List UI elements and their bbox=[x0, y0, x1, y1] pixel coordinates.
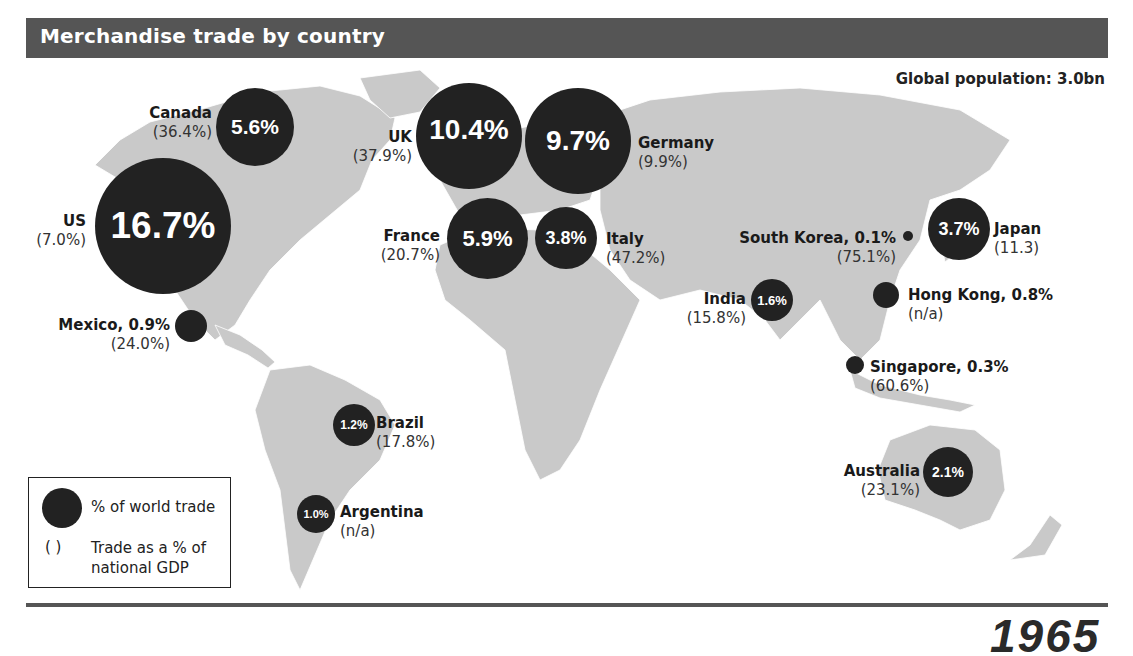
brazil-name: Brazil bbox=[376, 414, 435, 433]
australia-share: 2.1% bbox=[932, 464, 964, 480]
legend-gdp-label: Trade as a % of national GDP bbox=[91, 538, 226, 578]
germany-name: Germany bbox=[638, 134, 714, 153]
mexico-gdp: (24.0%) bbox=[40, 335, 170, 354]
mexico-bubble bbox=[175, 310, 207, 342]
mexico-label: Mexico, 0.9% (24.0%) bbox=[40, 316, 170, 354]
south-america-landmass bbox=[255, 365, 395, 590]
central-america-landmass bbox=[215, 325, 275, 368]
japan-label: Japan (11.3) bbox=[994, 220, 1041, 258]
south-korea-name: South Korea, 0.1% bbox=[720, 229, 896, 248]
italy-name: Italy bbox=[606, 230, 665, 249]
india-gdp: (15.8%) bbox=[670, 309, 746, 328]
hong-kong-name: Hong Kong, 0.8% bbox=[908, 286, 1053, 305]
argentina-bubble: 1.0% bbox=[297, 495, 335, 533]
uk-label: UK (37.9%) bbox=[330, 128, 412, 166]
us-share: 16.7% bbox=[111, 205, 216, 247]
germany-share: 9.7% bbox=[546, 125, 610, 157]
japan-gdp: (11.3) bbox=[994, 239, 1041, 258]
india-share: 1.6% bbox=[757, 293, 787, 308]
brazil-gdp: (17.8%) bbox=[376, 433, 435, 452]
legend-circle-icon bbox=[42, 488, 82, 528]
italy-bubble: 3.8% bbox=[535, 207, 597, 269]
legend-world-trade-label: % of world trade bbox=[91, 498, 215, 516]
japan-name: Japan bbox=[994, 220, 1041, 239]
france-gdp: (20.7%) bbox=[360, 246, 440, 265]
france-bubble: 5.9% bbox=[447, 198, 528, 279]
bottom-rule bbox=[26, 603, 1108, 607]
italy-share: 3.8% bbox=[545, 228, 586, 249]
brazil-bubble: 1.2% bbox=[333, 404, 375, 446]
canada-share: 5.6% bbox=[231, 115, 279, 139]
argentina-share: 1.0% bbox=[303, 508, 328, 520]
legend: % of world trade ( ) Trade as a % of nat… bbox=[28, 477, 231, 588]
us-gdp: (7.0%) bbox=[20, 231, 86, 250]
singapore-name: Singapore, 0.3% bbox=[870, 358, 1009, 377]
canada-name: Canada bbox=[130, 104, 212, 123]
germany-label: Germany (9.9%) bbox=[638, 134, 714, 172]
south-korea-bubble bbox=[903, 231, 913, 241]
canada-gdp: (36.4%) bbox=[130, 123, 212, 142]
france-label: France (20.7%) bbox=[360, 227, 440, 265]
india-label: India (15.8%) bbox=[670, 290, 746, 328]
us-label: US (7.0%) bbox=[20, 212, 86, 250]
italy-gdp: (47.2%) bbox=[606, 249, 665, 268]
singapore-bubble bbox=[846, 356, 864, 374]
year-label: 1965 bbox=[990, 613, 1100, 656]
argentina-label: Argentina (n/a) bbox=[340, 503, 424, 541]
australia-bubble: 2.1% bbox=[923, 447, 973, 497]
france-share: 5.9% bbox=[462, 226, 512, 252]
canada-bubble: 5.6% bbox=[216, 88, 294, 166]
australia-label: Australia (23.1%) bbox=[830, 462, 920, 500]
hong-kong-bubble bbox=[873, 282, 899, 308]
australia-name: Australia bbox=[830, 462, 920, 481]
brazil-label: Brazil (17.8%) bbox=[376, 414, 435, 452]
new-zealand-landmass bbox=[1010, 515, 1062, 560]
japan-bubble: 3.7% bbox=[928, 198, 990, 260]
south-korea-gdp: (75.1%) bbox=[720, 248, 896, 267]
japan-share: 3.7% bbox=[938, 219, 979, 240]
legend-parentheses-icon: ( ) bbox=[45, 538, 61, 556]
india-name: India bbox=[670, 290, 746, 309]
us-name: US bbox=[20, 212, 86, 231]
australia-gdp: (23.1%) bbox=[830, 481, 920, 500]
argentina-name: Argentina bbox=[340, 503, 424, 522]
hong-kong-label: Hong Kong, 0.8% (n/a) bbox=[908, 286, 1053, 324]
france-name: France bbox=[360, 227, 440, 246]
uk-name: UK bbox=[330, 128, 412, 147]
south-korea-label: South Korea, 0.1% (75.1%) bbox=[720, 229, 896, 267]
hong-kong-gdp: (n/a) bbox=[908, 305, 1053, 324]
italy-label: Italy (47.2%) bbox=[606, 230, 665, 268]
brazil-share: 1.2% bbox=[340, 418, 367, 432]
singapore-gdp: (60.6%) bbox=[870, 377, 1009, 396]
mexico-name: Mexico, 0.9% bbox=[40, 316, 170, 335]
germany-bubble: 9.7% bbox=[525, 88, 631, 194]
uk-bubble: 10.4% bbox=[416, 83, 522, 189]
canada-label: Canada (36.4%) bbox=[130, 104, 212, 142]
germany-gdp: (9.9%) bbox=[638, 153, 714, 172]
india-bubble: 1.6% bbox=[751, 279, 793, 321]
uk-gdp: (37.9%) bbox=[330, 147, 412, 166]
singapore-label: Singapore, 0.3% (60.6%) bbox=[870, 358, 1009, 396]
uk-share: 10.4% bbox=[429, 114, 508, 146]
us-bubble: 16.7% bbox=[95, 158, 231, 294]
argentina-gdp: (n/a) bbox=[340, 522, 424, 541]
